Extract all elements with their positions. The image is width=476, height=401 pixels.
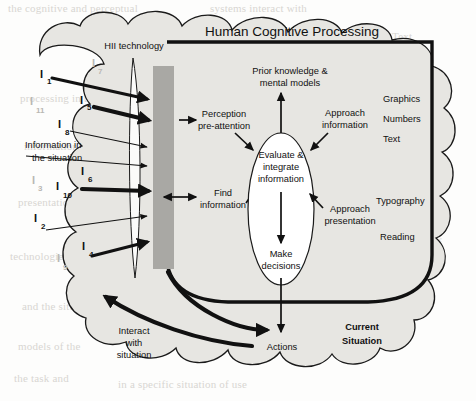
source-label-line2: the situation [32,153,82,163]
attribute-numbers: Numbers [383,114,421,124]
perception-label-line1: Perception [202,109,246,119]
svg-text:11: 11 [36,106,45,115]
figure-canvas: the cognitive and perceptualsystems inte… [0,0,476,401]
attribute-typography: Typography [376,196,425,206]
perception-label-line2: pre-attention [198,121,250,131]
find-label-line2: information [200,200,246,210]
presentation-bar [153,66,174,269]
interact-line1: Interact [118,326,149,336]
current-situation-line2: Situation [342,336,382,346]
svg-text:I: I [34,212,37,224]
decisions-line2: decisions [262,261,301,271]
figure-title: Human Cognitive Processing [205,24,379,39]
approach-presentation-line1: Approach [330,204,370,214]
svg-text:7: 7 [98,67,103,76]
evaluate-line3: information [258,174,304,184]
evaluate-line2: integrate [263,162,299,172]
svg-text:I: I [32,174,35,186]
info-label-I8: I 8 [58,118,70,137]
find-label-line1: Find [214,188,232,198]
attribute-reading: Reading [380,232,415,242]
prior-knowledge-line2: mental models [260,78,321,88]
cognitive-processing-diagram: Human Cognitive Processing HII technolog… [0,0,476,401]
prior-knowledge-line1: Prior knowledge & [252,66,328,76]
svg-text:I: I [40,68,43,80]
svg-text:I: I [80,94,83,106]
interact-line2: with [125,338,143,348]
info-label-I10: I 10 [56,180,72,200]
attribute-graphics: Graphics [383,94,421,104]
svg-text:8: 8 [65,128,70,137]
svg-text:10: 10 [63,191,72,200]
svg-text:I: I [57,252,60,264]
actions-label: Actions [267,342,298,352]
svg-text:5: 5 [87,103,92,112]
hii-technology-label: HII technology [104,41,164,51]
svg-text:9: 9 [63,263,68,272]
svg-text:I: I [30,95,33,107]
evaluate-line1: Evaluate & [259,150,305,160]
interact-line3: situation [117,350,152,360]
attribute-text: Text [383,134,400,144]
svg-text:I: I [82,240,85,252]
svg-text:6: 6 [88,175,93,184]
svg-text:I: I [81,165,84,177]
current-situation-line1: Current [345,322,379,332]
svg-text:1: 1 [47,77,52,86]
info-label-I3: I 3 [32,174,43,193]
approach-information-line2: information [322,120,368,130]
svg-text:4: 4 [89,250,94,259]
svg-text:I: I [92,57,95,69]
info-label-I2: I 2 [34,212,46,231]
svg-text:I: I [58,118,61,130]
decisions-line1: Make [270,249,293,259]
approach-presentation-line2: presentation [324,216,375,226]
approach-information-line1: Approach [325,108,365,118]
info-label-I11: I 11 [30,95,45,115]
svg-text:I: I [56,180,59,192]
svg-text:3: 3 [38,184,43,193]
info-label-I1: I 1 [40,68,52,86]
svg-text:2: 2 [41,222,46,231]
source-label-line1: Information in [25,140,81,150]
